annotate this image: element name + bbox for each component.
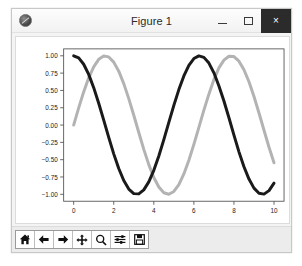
y-tick-label: 0.25	[45, 104, 58, 111]
minimize-icon	[218, 23, 227, 24]
configure-subplots-icon	[114, 234, 126, 245]
close-icon: ×	[273, 16, 279, 26]
x-tick-label: 6	[192, 207, 196, 214]
figure-canvas[interactable]: −1.00−0.75−0.50−0.250.000.250.500.751.00…	[15, 36, 290, 224]
back-arrow-icon	[38, 234, 50, 245]
x-tick-label: 8	[232, 207, 236, 214]
y-tick-label: 0.75	[45, 70, 58, 77]
x-tick-label: 0	[72, 207, 76, 214]
forward-arrow-icon	[57, 234, 69, 245]
maximize-icon	[244, 17, 253, 25]
forward-button[interactable]	[54, 231, 73, 248]
navigation-toolbar	[12, 226, 291, 252]
x-tick-label: 2	[112, 207, 116, 214]
figure-window: Figure 1 × −1.00−0.75−0.50−0.250.000.250…	[11, 8, 292, 253]
y-tick-label: 0.50	[45, 87, 58, 94]
y-tick-label: −0.25	[42, 139, 59, 146]
y-tick-label: 1.00	[45, 52, 58, 59]
maximize-button[interactable]	[235, 9, 261, 33]
save-button[interactable]	[130, 231, 148, 248]
x-tick-label: 10	[270, 207, 278, 214]
home-icon	[19, 234, 31, 245]
pan-move-icon	[76, 234, 88, 246]
back-button[interactable]	[35, 231, 54, 248]
axes-frame	[64, 49, 284, 201]
matplotlib-axes: −1.00−0.75−0.50−0.250.000.250.500.751.00…	[16, 37, 289, 223]
close-button[interactable]: ×	[261, 9, 291, 33]
title-bar[interactable]: Figure 1 ×	[12, 9, 291, 33]
x-tick-label: 4	[152, 207, 156, 214]
zoom-button[interactable]	[92, 231, 111, 248]
home-button[interactable]	[16, 231, 35, 248]
screen: Figure 1 × −1.00−0.75−0.50−0.250.000.250…	[0, 0, 302, 266]
y-tick-label: −0.75	[42, 174, 59, 181]
window-controls: ×	[209, 9, 291, 33]
y-tick-label: −0.50	[42, 156, 59, 163]
y-tick-label: −1.00	[42, 191, 59, 198]
zoom-magnifier-icon	[95, 234, 107, 246]
y-tick-label: 0.00	[45, 122, 58, 129]
save-disk-icon	[134, 234, 145, 245]
configure-subplots-button[interactable]	[111, 231, 130, 248]
series-line-cosx	[74, 56, 274, 194]
toolbar-button-group	[15, 230, 149, 249]
minimize-button[interactable]	[209, 9, 235, 33]
pan-button[interactable]	[73, 231, 92, 248]
